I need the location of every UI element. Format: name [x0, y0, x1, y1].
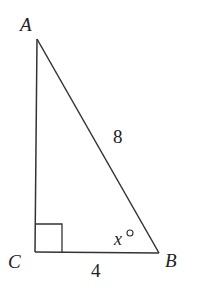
- triangle-diagram: A C B 8 4 x: [0, 0, 197, 297]
- side-ac: [35, 39, 37, 252]
- vertex-label-a: A: [18, 14, 32, 35]
- degree-symbol-icon: [127, 230, 133, 236]
- hypotenuse-length-label: 8: [113, 126, 123, 147]
- side-cb: [35, 252, 159, 253]
- angle-variable-label: x: [113, 229, 122, 249]
- vertex-label-c: C: [8, 251, 21, 272]
- right-angle-marker: [35, 224, 62, 252]
- triangle: [35, 39, 159, 253]
- vertex-label-b: B: [165, 250, 177, 271]
- side-ab-hypotenuse: [37, 39, 159, 253]
- base-length-label: 4: [91, 260, 101, 281]
